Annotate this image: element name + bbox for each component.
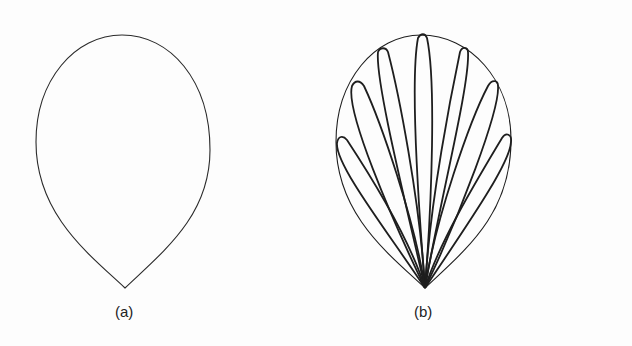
outer-outline (336, 35, 511, 288)
caption-b: (b) (414, 303, 432, 320)
diagram-canvas (0, 0, 632, 346)
figure-a-teardrop (36, 35, 210, 288)
lobes (337, 34, 511, 288)
figure-b-lobed-teardrop (336, 34, 511, 288)
caption-a: (a) (115, 303, 133, 320)
